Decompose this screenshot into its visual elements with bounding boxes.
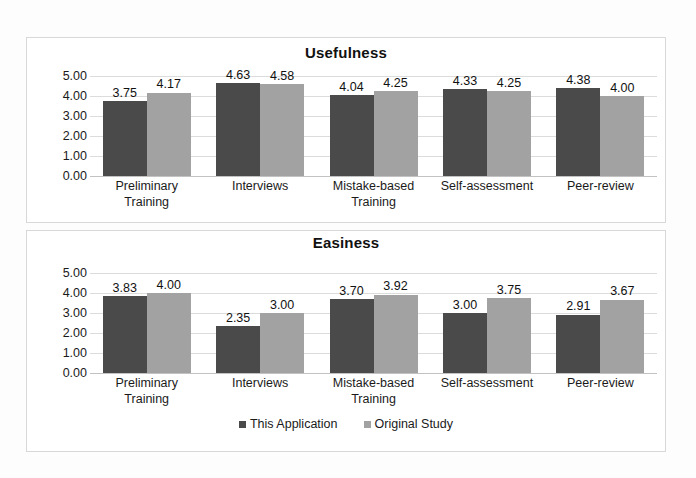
x-tick-label: Preliminary Training [90, 179, 203, 210]
bar-value-label: 3.00 [270, 299, 294, 312]
y-tick-label: 4.00 [63, 287, 87, 300]
bar: 4.25 [487, 91, 531, 176]
legend-swatch-icon [364, 421, 371, 428]
bar-value-label: 4.00 [157, 279, 181, 292]
plot-area-easiness: 3.834.002.353.003.703.923.003.752.913.67 [90, 273, 657, 373]
y-tick-label: 0.00 [63, 170, 87, 183]
bar-group: 4.334.25 [430, 76, 543, 176]
chart-title-usefulness: Usefulness [27, 44, 665, 61]
x-tick-label: Interviews [203, 376, 316, 407]
figure-root: Usefulness 5.00 4.00 3.00 2.00 1.00 0.00… [0, 0, 696, 478]
x-axis-labels-usefulness: Preliminary Training Interviews Mistake-… [90, 179, 657, 210]
bar-value-label: 2.35 [226, 312, 250, 325]
y-tick-label: 1.00 [63, 347, 87, 360]
bar-group: 4.384.00 [544, 76, 657, 176]
bar: 3.75 [103, 101, 147, 176]
x-axis-line [90, 176, 657, 177]
x-tick-label: Mistake-based Training [317, 376, 430, 407]
bar-groups-easiness: 3.834.002.353.003.703.923.003.752.913.67 [90, 273, 657, 373]
bar: 4.00 [600, 96, 644, 176]
bar-value-label: 3.67 [610, 285, 634, 298]
bar-slot: 2.91 [556, 273, 600, 373]
x-tick-label: Interviews [203, 179, 316, 210]
y-axis-labels-easiness: 5.00 4.00 3.00 2.00 1.00 0.00 [41, 273, 87, 373]
bar-slot: 4.58 [260, 76, 304, 176]
x-tick-label: Preliminary Training [90, 376, 203, 407]
y-tick-label: 3.00 [63, 307, 87, 320]
bar-slot: 3.83 [103, 273, 147, 373]
bar-value-label: 3.70 [339, 285, 363, 298]
bar-group: 3.834.00 [90, 273, 203, 373]
y-tick-label: 5.00 [63, 267, 87, 280]
bar: 3.92 [374, 295, 418, 373]
bar: 4.17 [147, 93, 191, 176]
bar-value-label: 4.25 [497, 77, 521, 90]
bar: 3.00 [443, 313, 487, 373]
bar-slot: 4.25 [374, 76, 418, 176]
bar-group: 4.634.58 [203, 76, 316, 176]
bar: 3.83 [103, 296, 147, 373]
bar-slot: 3.92 [374, 273, 418, 373]
bar-slot: 4.25 [487, 76, 531, 176]
bar: 4.38 [556, 88, 600, 176]
x-tick-label: Mistake-based Training [317, 179, 430, 210]
bar: 4.25 [374, 91, 418, 176]
bar-value-label: 2.91 [566, 300, 590, 313]
bar-slot: 4.63 [216, 76, 260, 176]
bar: 4.00 [147, 293, 191, 373]
bar: 4.04 [330, 95, 374, 176]
legend-item-original-study: Original Study [364, 417, 454, 431]
chart-title-easiness: Easiness [27, 234, 665, 251]
x-tick-label: Self-assessment [430, 179, 543, 210]
x-tick-label: Self-assessment [430, 376, 543, 407]
bar-value-label: 4.33 [453, 75, 477, 88]
bar-value-label: 3.92 [383, 280, 407, 293]
bar-slot: 2.35 [216, 273, 260, 373]
bar-group: 3.703.92 [317, 273, 430, 373]
chart-panel-usefulness: Usefulness 5.00 4.00 3.00 2.00 1.00 0.00… [26, 37, 666, 223]
bar-slot: 3.75 [487, 273, 531, 373]
bar-value-label: 4.58 [270, 70, 294, 83]
bar-value-label: 4.17 [157, 78, 181, 91]
bar-group: 2.353.00 [203, 273, 316, 373]
bar-slot: 4.04 [330, 76, 374, 176]
x-axis-line [90, 373, 657, 374]
legend-swatch-icon [239, 421, 246, 428]
y-tick-label: 2.00 [63, 327, 87, 340]
y-tick-label: 4.00 [63, 90, 87, 103]
bar-groups-usefulness: 3.754.174.634.584.044.254.334.254.384.00 [90, 76, 657, 176]
bar-group: 3.003.75 [430, 273, 543, 373]
y-tick-label: 0.00 [63, 367, 87, 380]
y-tick-label: 2.00 [63, 130, 87, 143]
bar: 3.70 [330, 299, 374, 373]
y-axis-labels-usefulness: 5.00 4.00 3.00 2.00 1.00 0.00 [41, 76, 87, 176]
bar: 4.63 [216, 83, 260, 176]
bar-value-label: 3.75 [113, 87, 137, 100]
y-tick-label: 5.00 [63, 70, 87, 83]
bar-slot: 3.00 [443, 273, 487, 373]
bar-group: 4.044.25 [317, 76, 430, 176]
chart-legend: This Application Original Study [27, 417, 665, 431]
bar-value-label: 4.25 [383, 77, 407, 90]
plot-area-usefulness: 3.754.174.634.584.044.254.334.254.384.00 [90, 76, 657, 176]
bar: 2.35 [216, 326, 260, 373]
bar: 3.75 [487, 298, 531, 373]
bar: 4.58 [260, 84, 304, 176]
chart-panel-easiness: Easiness 5.00 4.00 3.00 2.00 1.00 0.00 3… [26, 230, 666, 452]
legend-label: Original Study [375, 417, 454, 431]
bar: 2.91 [556, 315, 600, 373]
x-tick-label: Peer-review [544, 376, 657, 407]
bar-slot: 4.38 [556, 76, 600, 176]
bar: 4.33 [443, 89, 487, 176]
bar-slot: 3.00 [260, 273, 304, 373]
y-tick-label: 3.00 [63, 110, 87, 123]
x-axis-labels-easiness: Preliminary Training Interviews Mistake-… [90, 376, 657, 407]
bar-slot: 4.00 [147, 273, 191, 373]
bar-group: 2.913.67 [544, 273, 657, 373]
bar-value-label: 3.83 [113, 282, 137, 295]
bar: 3.00 [260, 313, 304, 373]
bar-slot: 4.33 [443, 76, 487, 176]
bar: 3.67 [600, 300, 644, 373]
legend-label: This Application [250, 417, 338, 431]
bar-slot: 4.17 [147, 76, 191, 176]
